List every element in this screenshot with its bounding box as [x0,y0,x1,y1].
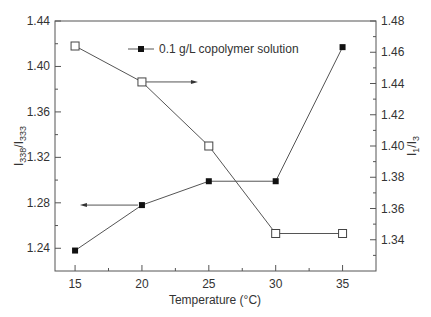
right-y-tick-label: 1.40 [381,139,405,153]
x-tick-label: 15 [68,277,82,291]
left-y-tick-label: 1.40 [27,59,51,73]
x-tick-label: 30 [269,277,283,291]
data-point-filled [340,44,346,50]
data-point-filled [273,178,279,184]
right-y-tick-label: 1.36 [381,202,405,216]
left-y-tick-label: 1.44 [27,14,51,28]
legend-label: 0.1 g/L copolymer solution [159,42,299,56]
right-y-tick-label: 1.34 [381,233,405,247]
right-y-tick-label: 1.48 [381,14,405,28]
left-y-axis-label: I338/I333 [12,126,28,166]
left-y-tick-label: 1.36 [27,105,51,119]
data-point-open [205,142,213,150]
left-y-tick-label: 1.28 [27,196,51,210]
data-point-open [339,230,347,238]
x-tick-label: 20 [135,277,149,291]
data-point-open [272,230,280,238]
chart-svg: 1520253035 1.241.281.321.361.401.44 1.34… [0,0,431,317]
right-y-axis: 1.341.361.381.401.421.441.461.48 [370,14,405,255]
legend: 0.1 g/L copolymer solution [128,42,299,56]
chart: 1520253035 1.241.281.321.361.401.44 1.34… [0,0,431,317]
x-tick-label: 35 [336,277,350,291]
left-y-tick-label: 1.32 [27,150,51,164]
right-arrow-icon [191,80,198,84]
arrow-annotations [80,80,198,207]
x-tick-label: 25 [202,277,216,291]
right-y-tick-label: 1.42 [381,108,405,122]
data-point-open [71,42,79,50]
legend-marker-filled-square [138,46,144,52]
data-point-filled [72,248,78,254]
right-y-tick-label: 1.38 [381,170,405,184]
right-y-tick-label: 1.46 [381,45,405,59]
x-axis-label: Temperature (°C) [169,293,261,307]
data-point-filled [139,202,145,208]
series-layer [71,42,347,254]
svg-text:I1/I3: I1/I3 [405,136,421,156]
left-y-axis: 1.241.281.321.361.401.44 [27,14,61,255]
right-y-tick-label: 1.44 [381,77,405,91]
svg-text:I338/I333: I338/I333 [12,126,28,166]
data-point-open [138,78,146,86]
x-axis: 1520253035 [68,265,349,291]
right-y-axis-label: I1/I3 [405,136,421,156]
left-arrow-icon [80,203,87,207]
left-y-tick-label: 1.24 [27,241,51,255]
data-point-filled [206,178,212,184]
